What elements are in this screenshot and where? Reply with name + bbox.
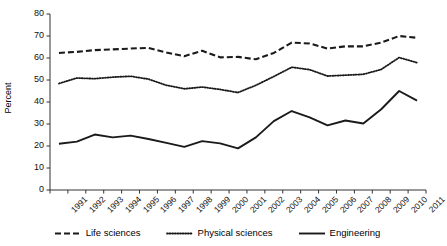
legend-label: Life sciences [86,228,141,238]
series-line-life-sciences [59,36,417,59]
y-axis-tick-label: 70 [20,31,44,40]
y-axis-tick-label: 20 [20,141,44,150]
y-axis-tick-label: 10 [20,163,44,172]
legend-swatch-solid-icon [299,230,325,237]
y-axis-tick-label: 50 [20,75,44,84]
series-line-physical-sciences [59,58,417,93]
y-axis-title-text: Percent [3,82,13,113]
y-axis-title: Percent [0,0,16,196]
chart-series-layer [59,36,417,148]
legend-swatch-dashed-icon [55,230,81,237]
y-axis-tick-label: 30 [20,119,44,128]
y-axis-ticks [47,14,51,190]
y-axis-tick-label: 40 [20,97,44,106]
x-axis-ticks [50,190,426,194]
y-axis-tick-label: 80 [20,9,44,18]
series-line-engineering [59,91,417,148]
legend-label: Engineering [330,228,381,238]
y-axis-tick-label: 60 [20,53,44,62]
y-axis-tick-labels: 80706050403020100 [18,0,44,200]
y-axis-tick-label: 0 [20,185,44,194]
chart-legend: Life sciencesPhysical sciencesEngineerin… [0,224,435,242]
legend-item-physical-sciences[interactable]: Physical sciences [167,228,273,238]
legend-label: Physical sciences [198,228,273,238]
legend-swatch-dotted-icon [167,230,193,237]
legend-item-engineering[interactable]: Engineering [299,228,381,238]
chart-axes [47,14,427,194]
legend-item-life-sciences[interactable]: Life sciences [55,228,141,238]
